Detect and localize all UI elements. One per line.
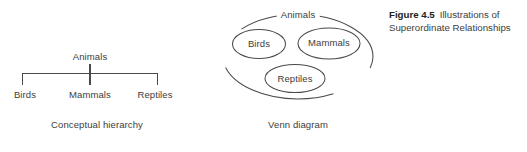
venn-inner-label-reptiles: Reptiles bbox=[277, 73, 312, 84]
tree-leaf-label-mammals: Mammals bbox=[69, 89, 111, 100]
venn-inner-label-birds: Birds bbox=[248, 38, 270, 49]
conceptual-hierarchy-caption: Conceptual hierarchy bbox=[51, 119, 143, 130]
tree-leaf-label-reptiles: Reptiles bbox=[137, 89, 172, 100]
figure-caption-number: Figure 4.5 bbox=[389, 9, 435, 20]
venn-diagram: Animals Birds Mammals Reptiles Venn diag… bbox=[195, 0, 385, 152]
tree-leaf-label-birds: Birds bbox=[14, 89, 36, 100]
venn-outer-label: Animals bbox=[277, 9, 320, 20]
conceptual-hierarchy-diagram: Animals Birds Mammals Reptiles Conceptua… bbox=[0, 0, 195, 152]
figure-illustration: Animals Birds Mammals Reptiles Conceptua… bbox=[0, 0, 527, 152]
venn-inner-label-mammals: Mammals bbox=[308, 37, 350, 48]
tree-root-label: Animals bbox=[73, 51, 108, 62]
figure-caption: Figure 4.5Illustrations of Superordinate… bbox=[389, 8, 527, 34]
venn-diagram-caption: Venn diagram bbox=[268, 119, 328, 130]
